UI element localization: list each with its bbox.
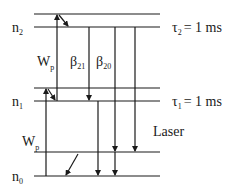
label-wp-lower: Wp: [22, 134, 39, 152]
label-wp-upper: Wp: [37, 54, 54, 72]
label-n2: n2: [12, 20, 23, 37]
energy-level-diagram: n2 n1 n0 Wp Wp β21 β20 Laser τ2= 1 ms τ1…: [0, 0, 242, 192]
relax-arrow-bottom: [66, 154, 78, 175]
label-n1: n1: [12, 94, 23, 111]
label-n0: n0: [12, 169, 23, 186]
energy-levels: [34, 14, 160, 176]
label-tau2: τ2= 1 ms: [172, 20, 222, 37]
label-tau1: τ1= 1 ms: [172, 94, 222, 111]
relax-arrow-lower: [48, 89, 55, 100]
relax-arrow-upper: [59, 15, 68, 26]
label-beta20: β20: [96, 54, 111, 71]
label-laser: Laser: [153, 124, 184, 139]
label-beta21: β21: [70, 54, 85, 71]
